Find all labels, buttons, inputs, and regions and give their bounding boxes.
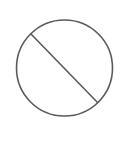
prohibited-icon xyxy=(0,0,127,142)
diagonal-slash xyxy=(31,34,98,103)
